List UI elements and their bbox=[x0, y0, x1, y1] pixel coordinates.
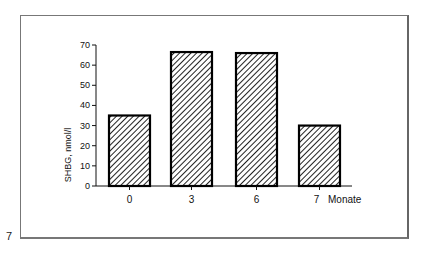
y-tick-label: 0 bbox=[85, 181, 90, 191]
x-tick-label: 7 bbox=[314, 194, 320, 205]
y-tick-label: 10 bbox=[80, 161, 90, 171]
y-tick-label: 70 bbox=[80, 40, 90, 50]
bar-0 bbox=[109, 116, 150, 187]
bar-chart: 010203040506070 0367 SHBG, nmol/l Monate bbox=[0, 0, 425, 253]
y-tick-label: 50 bbox=[80, 80, 90, 90]
y-ticks: 010203040506070 bbox=[80, 40, 96, 191]
y-tick-label: 40 bbox=[80, 100, 90, 110]
x-axis-unit-label: Monate bbox=[328, 194, 362, 205]
bars bbox=[109, 52, 340, 186]
bar-6 bbox=[236, 53, 277, 186]
x-tick-label: 6 bbox=[254, 194, 260, 205]
x-ticks: 0367 bbox=[127, 186, 320, 205]
y-axis-title: SHBG, nmol/l bbox=[63, 128, 73, 183]
x-tick-label: 0 bbox=[127, 194, 133, 205]
bar-3 bbox=[171, 52, 212, 186]
bar-7 bbox=[299, 126, 340, 186]
x-tick-label: 3 bbox=[189, 194, 195, 205]
y-tick-label: 30 bbox=[80, 121, 90, 131]
y-tick-label: 60 bbox=[80, 60, 90, 70]
y-tick-label: 20 bbox=[80, 141, 90, 151]
